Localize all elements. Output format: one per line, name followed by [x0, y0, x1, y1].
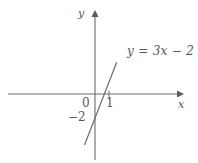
x-tick-label-one: 1: [106, 97, 114, 109]
coordinate-plane-svg: [0, 0, 198, 163]
y-intercept-label: −2: [68, 111, 86, 123]
y-axis-label: y: [78, 8, 84, 19]
graph-figure: y x 0 1 −2 y = 3x − 2: [0, 0, 198, 163]
origin-label: 0: [82, 97, 90, 109]
x-axis-label: x: [178, 99, 184, 110]
equation-label: y = 3x − 2: [127, 45, 194, 57]
y-axis-arrow-icon: [91, 10, 98, 17]
x-axis-arrow-icon: [177, 90, 184, 97]
